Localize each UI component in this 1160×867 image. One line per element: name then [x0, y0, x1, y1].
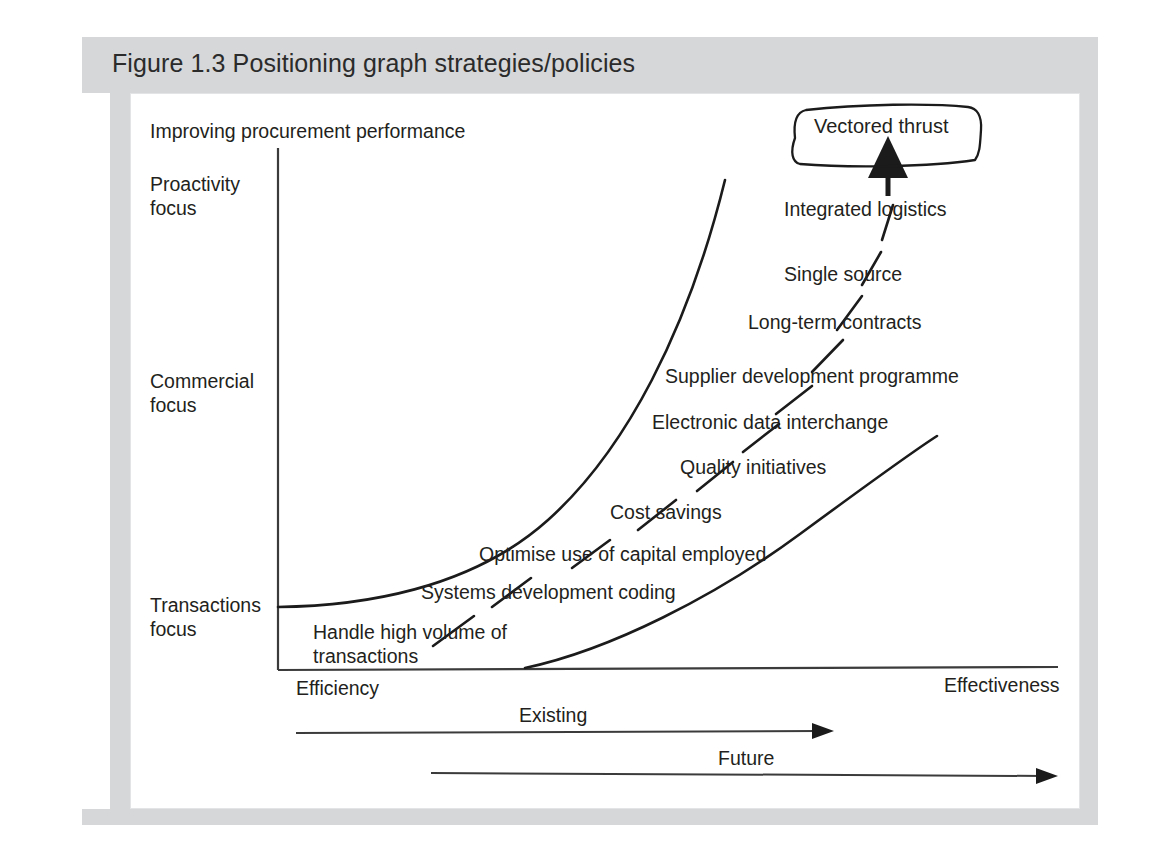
station-electronic-data-interchange: Electronic data interchange: [652, 410, 888, 435]
station-handle-high-volume-line1: Handle high volume of: [313, 620, 507, 645]
x-axis-left-label: Efficiency: [296, 676, 379, 701]
y-axis-title: Improving procurement performance: [150, 119, 465, 144]
station-long-term-contracts: Long-term contracts: [748, 310, 921, 335]
y-level-transactions-line2: focus: [150, 617, 197, 642]
station-handle-high-volume-line2: transactions: [313, 644, 418, 669]
station-systems-development-coding: Systems development coding: [421, 580, 676, 605]
timeline-existing-label: Existing: [519, 703, 587, 728]
vectored-thrust-label: Vectored thrust: [814, 114, 949, 140]
station-quality-initiatives: Quality initiatives: [680, 455, 826, 480]
y-level-proactivity-line1: Proactivity: [150, 172, 240, 197]
x-axis-right-label: Effectiveness: [944, 673, 1060, 698]
y-level-proactivity-line2: focus: [150, 196, 197, 221]
y-level-commercial-line2: focus: [150, 393, 197, 418]
figure-frame: Figure 1.3 Positioning graph strategies/…: [82, 37, 1098, 825]
station-integrated-logistics: Integrated logistics: [784, 197, 947, 222]
y-level-commercial-line1: Commercial: [150, 369, 254, 394]
timeline-future-label: Future: [718, 746, 774, 771]
frame-left-notch: [82, 93, 110, 809]
y-level-transactions-line1: Transactions: [150, 593, 261, 618]
station-optimise-capital-employed: Optimise use of capital employed: [479, 542, 766, 567]
station-single-source: Single source: [784, 262, 902, 287]
station-supplier-development-programme: Supplier development programme: [665, 364, 959, 389]
figure-caption: Figure 1.3 Positioning graph strategies/…: [112, 49, 635, 78]
station-cost-savings: Cost savings: [610, 500, 722, 525]
